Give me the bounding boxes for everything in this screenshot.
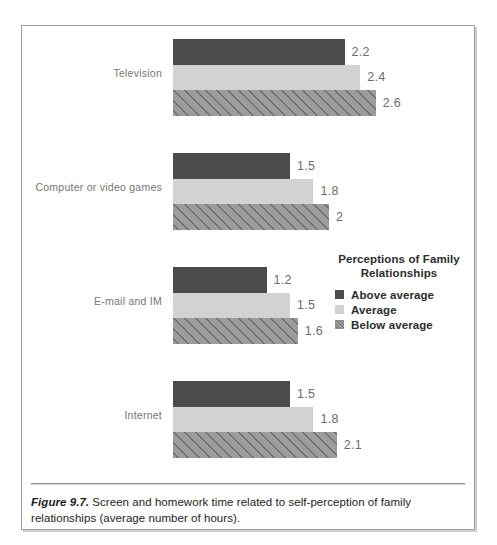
- bar-value-label: 2: [336, 210, 343, 224]
- bar-value-label: 1.5: [297, 298, 315, 312]
- bar-value-label: 1.5: [297, 159, 315, 173]
- bar-below: [173, 318, 298, 344]
- bar-avg: [173, 407, 313, 433]
- bar-above: [173, 39, 345, 65]
- legend-swatch-below: [335, 320, 344, 329]
- legend-swatch-avg: [335, 305, 344, 314]
- legend-swatch-above: [335, 290, 344, 299]
- figure-caption: Figure 9.7. Screen and homework time rel…: [31, 494, 459, 527]
- bar-below: [173, 432, 337, 458]
- bar-avg: [173, 179, 313, 205]
- bar-avg: [173, 293, 290, 319]
- bar-value-label: 2.2: [352, 45, 370, 59]
- legend-item: Below average: [335, 319, 475, 331]
- figure-root: Television2.22.42.6Computer or video gam…: [0, 0, 497, 545]
- legend-item-label: Above average: [351, 289, 434, 301]
- bar-value-label: 2.1: [344, 438, 362, 452]
- bar-value-label: 1.8: [320, 412, 338, 426]
- category-label: Internet: [22, 409, 162, 421]
- chart-legend: Perceptions of Family Relationships Abov…: [323, 252, 475, 334]
- bar-below: [173, 90, 376, 116]
- bar-value-label: 1.2: [274, 273, 292, 287]
- bar-value-label: 2.6: [383, 96, 401, 110]
- legend-title-line2: Relationships: [323, 266, 475, 280]
- category-label: Television: [22, 67, 162, 79]
- bar-group: Internet1.51.82.1: [22, 381, 476, 460]
- category-label: Computer or video games: [22, 181, 162, 193]
- legend-item-label: Average: [351, 304, 397, 316]
- bar-value-label: 2.4: [367, 70, 385, 84]
- bar-group: Television2.22.42.6: [22, 39, 476, 118]
- legend-title: Perceptions of Family Relationships: [323, 252, 475, 281]
- bar-value-label: 1.6: [305, 324, 323, 338]
- bar-group: Computer or video games1.51.82: [22, 153, 476, 232]
- bar-above: [173, 381, 290, 407]
- legend-item-list: Above averageAverageBelow average: [323, 289, 475, 331]
- bar-value-label: 1.8: [320, 184, 338, 198]
- legend-item: Average: [335, 304, 475, 316]
- category-label: E-mail and IM: [22, 295, 162, 307]
- bar-above: [173, 153, 290, 179]
- figure-number: Figure 9.7.: [31, 496, 89, 508]
- legend-title-line1: Perceptions of Family: [323, 252, 475, 266]
- bar-below: [173, 204, 329, 230]
- figure-frame: Television2.22.42.6Computer or video gam…: [21, 25, 475, 530]
- bar-value-label: 1.5: [297, 387, 315, 401]
- legend-item-label: Below average: [351, 319, 433, 331]
- figure-caption-text: Screen and homework time related to self…: [31, 496, 411, 524]
- legend-item: Above average: [335, 289, 475, 301]
- bar-above: [173, 267, 267, 293]
- bar-avg: [173, 65, 360, 91]
- caption-divider: [31, 483, 465, 484]
